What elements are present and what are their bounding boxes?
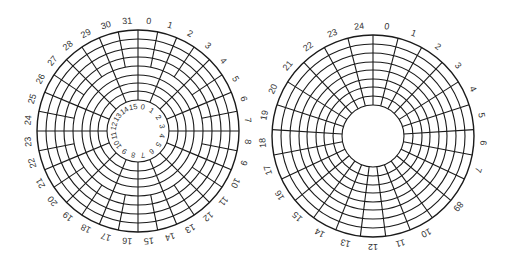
sector-number-label: 27 — [45, 54, 59, 68]
inner-sector-number-label: 6 — [147, 146, 155, 156]
sector-boundary-line — [402, 105, 469, 127]
sector-number-label: 24 — [22, 115, 33, 126]
inner-sector-number-label: 0 — [140, 102, 146, 112]
sector-number-label: 19 — [258, 109, 270, 121]
sector-number-label: 17 — [261, 164, 274, 177]
figure: 0123456789101112131415161718192021222324… — [0, 0, 505, 269]
sector-number-label: 24 — [354, 21, 365, 32]
sector-number-label: 13 — [339, 237, 351, 249]
sector-number-label: 21 — [281, 58, 295, 72]
sector-number-label: 6 — [238, 95, 249, 103]
sector-boundary-line — [304, 62, 352, 113]
sector-boundary-line — [184, 177, 209, 202]
inner-sector-number-label: 1 — [147, 106, 155, 116]
sector-number-label: 4 — [468, 85, 479, 94]
sector-number-label: 26 — [34, 72, 48, 86]
sector-number-label: 10 — [419, 226, 433, 240]
sector-boundary-line — [384, 165, 410, 230]
inner-sector-number-label: 15 — [128, 102, 138, 112]
sector-number-label: 15 — [290, 210, 304, 224]
inner-sector-number-label: 8 — [130, 150, 136, 160]
sector-boundary-line — [336, 165, 362, 230]
sector-boundary-line — [274, 142, 343, 155]
sector-number-label: 14 — [313, 226, 327, 240]
disk-diagram: 0123456789101112131415161718192021222324… — [0, 0, 505, 269]
sector-number-label: 8 — [243, 139, 253, 145]
sector-number-label: 25 — [26, 93, 38, 105]
sector-boundary-line — [184, 60, 209, 85]
sector-number-label: 23 — [326, 27, 339, 40]
sector-number-label: 18 — [79, 222, 93, 236]
sector-number-label: 10 — [229, 176, 243, 190]
sector-boundary-line — [394, 62, 442, 113]
inner-sector-number-label: 4 — [157, 133, 167, 139]
sector-boundary-line — [67, 177, 92, 202]
sector-number-label: 12 — [368, 242, 378, 252]
inner-sector-number-label: 2 — [153, 113, 163, 121]
sector-boundary-line — [160, 85, 184, 109]
sector-number-label: 5 — [476, 112, 487, 119]
sector-number-label: 6 — [478, 140, 488, 146]
sector-number-label: 21 — [34, 176, 48, 190]
sector-number-label: 20 — [45, 194, 59, 208]
sector-number-label: 4 — [218, 56, 229, 66]
sector-number-label: 9 — [238, 159, 249, 167]
sector-number-label: 0 — [384, 21, 390, 32]
sector-number-label: 30 — [100, 19, 112, 31]
sector-number-label: 13 — [183, 222, 197, 236]
sector-number-label: 23 — [22, 136, 33, 147]
sector-number-label: 29 — [79, 27, 93, 41]
sector-boundary-line — [282, 149, 345, 179]
sector-number-label: 15 — [143, 236, 154, 247]
hole-edge-ring — [342, 105, 404, 167]
inner-sector-number-label: 7 — [140, 150, 146, 160]
sector-number-label: 1 — [166, 20, 174, 31]
sector-number-label: 18 — [257, 138, 268, 149]
sector-boundary-line — [67, 60, 92, 85]
sector-number-label: 20 — [266, 82, 279, 95]
sector-number-label: 22 — [26, 157, 38, 169]
inner-sector-number-label: 5 — [153, 140, 163, 148]
sector-number-label: 7 — [473, 166, 484, 174]
sector-boundary-line — [92, 153, 116, 177]
sector-boundary-line — [160, 153, 184, 177]
inner-sector-number-label: 3 — [157, 123, 167, 129]
sector-number-label: 22 — [301, 40, 315, 54]
zoned-disk: 0123456789101112131415161718192021222324… — [22, 15, 253, 246]
inner-sector-number-label: 11 — [109, 131, 119, 140]
sector-number-label: 31 — [122, 15, 133, 26]
sector-number-label: 2 — [433, 41, 443, 52]
sector-number-label: 3 — [203, 40, 213, 51]
sector-number-label: 17 — [100, 231, 112, 243]
sector-boundary-line — [92, 85, 116, 109]
sector-number-label: 12 — [201, 209, 215, 223]
sector-number-label: 11 — [395, 237, 407, 249]
sector-number-label: 7 — [243, 117, 253, 123]
sector-number-label: 14 — [164, 231, 176, 243]
sector-number-label: 11 — [217, 194, 231, 208]
sector-number-label: 1 — [410, 28, 418, 39]
constant-sector-disk: 0123456789101112131415161718192021222324 — [257, 21, 488, 252]
sector-number-label: 3 — [453, 60, 464, 70]
sector-number-label: 5 — [230, 74, 241, 83]
sector-number-label: 16 — [273, 188, 287, 202]
sector-number-label: 19 — [61, 209, 75, 223]
sector-number-label: 16 — [122, 236, 133, 247]
track-ring — [333, 96, 413, 176]
sector-boundary-line — [277, 105, 344, 127]
sector-number-label: 2 — [186, 28, 195, 39]
sector-number-label: 89 — [451, 199, 465, 213]
sector-boundary-line — [403, 142, 472, 155]
sector-boundary-line — [401, 149, 464, 179]
sector-number-label: 0 — [146, 16, 152, 26]
sector-number-label: 28 — [61, 38, 75, 52]
